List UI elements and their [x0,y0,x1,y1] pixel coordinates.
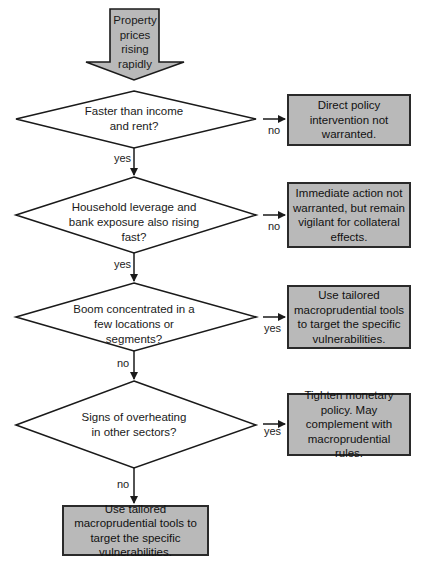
flowchart-canvas [0,0,422,563]
final-outcome-box: Use tailored macroprudential tools to ta… [62,505,209,556]
branch-label-1: no [268,124,280,136]
start-label: Property prices rising rapidly [108,13,162,71]
continue-label-4: no [117,478,129,490]
outcome-box-1: Direct policy intervention not warranted… [287,94,411,146]
outcome-box-4: Tighten monetary policy. May complement … [287,393,411,456]
continue-label-2: yes [114,258,131,270]
branch-label-2: no [268,220,280,232]
branch-label-4: yes [264,425,281,437]
continue-label-1: yes [114,152,131,164]
decision-question-2: Household leverage and bank exposure als… [58,200,210,245]
outcome-box-3: Use tailored macroprudential tools to ta… [287,285,411,349]
decision-question-4: Signs of overheating in other sectors? [76,410,192,440]
outcome-box-2: Immediate action not warranted, but rema… [287,182,411,248]
branch-label-3: yes [264,322,281,334]
continue-label-3: no [117,357,129,369]
decision-question-1: Faster than income and rent? [74,104,194,134]
decision-question-3: Boom concentrated in a few locations or … [66,302,202,347]
